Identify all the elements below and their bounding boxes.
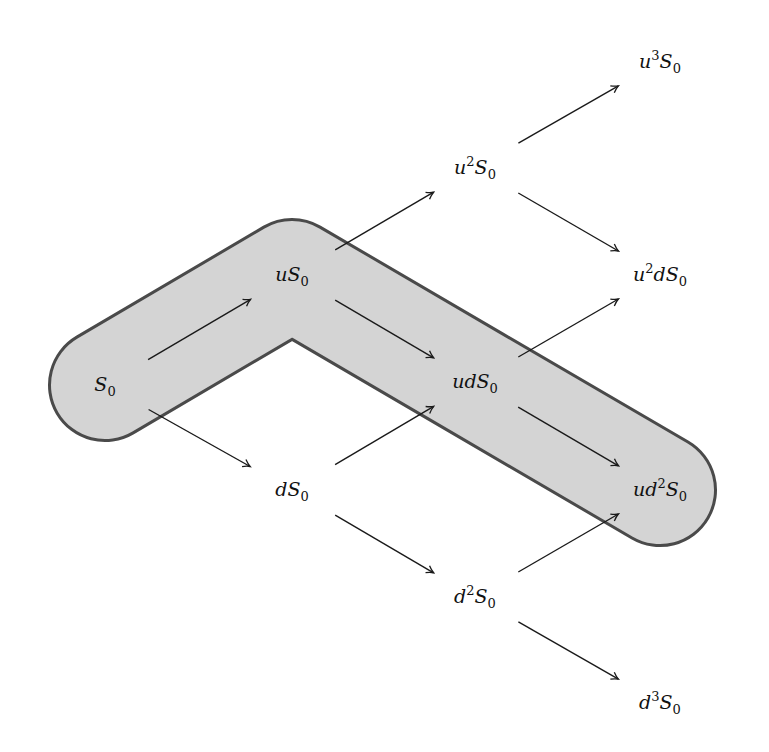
arrow-d2S0-to-ud2S0 <box>518 514 618 572</box>
node-u2S0: u2S0 <box>454 154 496 182</box>
arrow-uS0-to-u2S0 <box>335 192 433 250</box>
highlighted-path-band <box>105 275 660 490</box>
node-u3S0: u3S0 <box>639 48 681 76</box>
arrow-u2S0-to-u3S0 <box>518 86 618 143</box>
node-u2dS0: u2dS0 <box>633 261 687 289</box>
node-dS0: dS0 <box>275 478 308 504</box>
arrow-d2S0-to-d3S0 <box>518 622 618 679</box>
arrow-u2S0-to-u2dS0 <box>518 193 618 251</box>
arrow-dS0-to-udS0 <box>335 406 434 464</box>
arrow-dS0-to-d2S0 <box>335 515 433 573</box>
band-fill <box>105 275 660 490</box>
node-d2S0: d2S0 <box>454 583 496 611</box>
binomial-tree-diagram: S0uS0dS0u2S0udS0d2S0u3S0u2dS0ud2S0d3S0 <box>0 0 769 752</box>
node-d3S0: d3S0 <box>639 689 681 717</box>
arrow-udS0-to-u2dS0 <box>518 299 618 357</box>
arrow-S0-to-dS0 <box>149 410 251 467</box>
